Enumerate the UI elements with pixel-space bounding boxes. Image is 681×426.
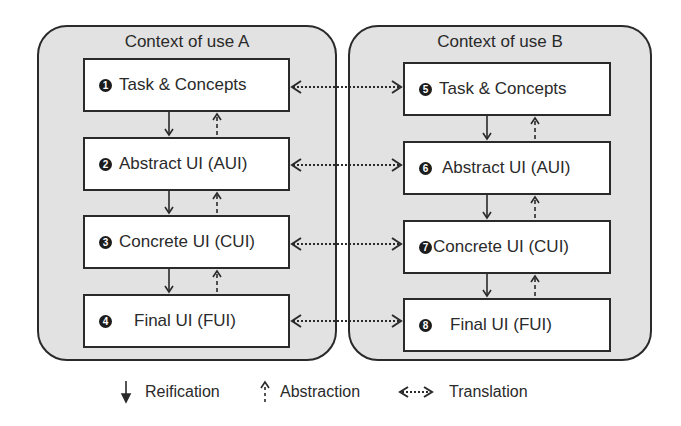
legend-translation-label: Translation bbox=[449, 383, 528, 401]
reification-arrow-icon bbox=[483, 116, 491, 296]
translation-arrow-icon bbox=[292, 81, 401, 327]
abstraction-arrow-icon bbox=[531, 118, 539, 296]
reification-arrow-icon bbox=[165, 112, 173, 292]
legend-reification-label: Reification bbox=[145, 383, 220, 401]
legend-reification-icon bbox=[122, 381, 130, 402]
abstraction-arrow-icon bbox=[213, 114, 221, 292]
legend-abstraction-label: Abstraction bbox=[280, 383, 360, 401]
arrows-layer bbox=[0, 0, 681, 426]
legend-translation-icon bbox=[400, 387, 432, 397]
legend-abstraction-icon bbox=[261, 382, 269, 402]
